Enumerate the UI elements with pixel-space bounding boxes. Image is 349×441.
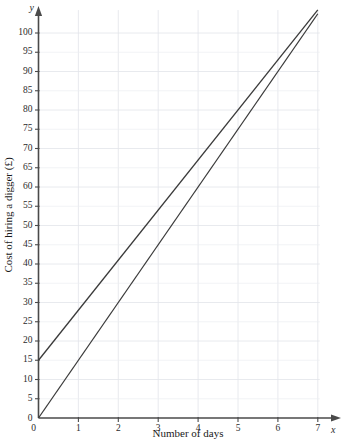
y-axis-title: Cost of hiring a digger (£) [2, 157, 15, 273]
x-axis-title: Number of days [153, 427, 224, 439]
y-tick-label: 85 [23, 85, 33, 95]
y-tick-label: 75 [23, 123, 33, 133]
y-tick-label: 20 [23, 335, 33, 345]
y-axis-arrow-icon [35, 6, 42, 16]
series-line-line-with-fixed-charge [39, 10, 318, 360]
x-tick-label: 7 [315, 423, 320, 433]
x-axis-symbol: x [330, 424, 336, 435]
y-tick-label: 25 [23, 316, 33, 326]
y-tick-label: 80 [23, 104, 33, 114]
series-line-line-through-origin [39, 14, 318, 418]
y-tick-label: 50 [23, 220, 33, 230]
chart-container: 0510152025303540455055606570758085909510… [0, 0, 349, 441]
y-tick-label: 45 [23, 239, 33, 249]
x-axis-arrow-icon [331, 414, 341, 421]
y-tick-label: 65 [23, 162, 33, 172]
x-tick-label: 6 [276, 423, 281, 433]
y-tick-label: 5 [28, 393, 33, 403]
y-tick-label: 30 [23, 297, 33, 307]
y-tick-label: 10 [23, 374, 33, 384]
y-tick-label: 35 [23, 277, 33, 287]
axes [35, 6, 341, 422]
y-tick-labels: 0510152025303540455055606570758085909510… [18, 27, 33, 423]
x-tick-label: 2 [116, 423, 121, 433]
line-chart: 0510152025303540455055606570758085909510… [0, 0, 349, 441]
x-tick-label: 1 [76, 423, 81, 433]
tick-marks [35, 33, 318, 422]
y-tick-label: 100 [18, 27, 33, 37]
y-tick-label: 0 [28, 413, 33, 423]
y-tick-label: 15 [23, 354, 33, 364]
y-tick-label: 40 [23, 258, 33, 268]
y-tick-label: 60 [23, 181, 33, 191]
x-tick-label: 5 [236, 423, 241, 433]
y-tick-label: 90 [23, 66, 33, 76]
y-axis-symbol: y [29, 2, 35, 13]
y-tick-label: 95 [23, 46, 33, 56]
y-tick-label: 70 [23, 143, 33, 153]
y-tick-label: 55 [23, 200, 33, 210]
x-tick-label: 0 [31, 423, 36, 433]
